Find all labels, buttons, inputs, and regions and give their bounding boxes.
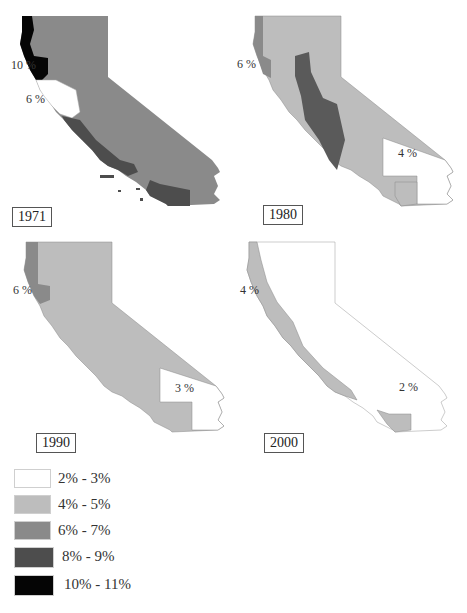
map-annotation: 6 % xyxy=(237,57,256,72)
map-annotation: 4 % xyxy=(240,283,259,298)
legend-swatch xyxy=(14,521,51,540)
map-panel-1971: 10 % 6 % 1971 xyxy=(0,0,233,240)
legend-swatch xyxy=(14,575,54,596)
legend-item: 8% - 9% xyxy=(14,547,214,569)
california-map-1980 xyxy=(233,0,467,240)
year-label: 1971 xyxy=(12,207,52,227)
california-map-1990 xyxy=(0,240,233,465)
map-annotation: 2 % xyxy=(399,380,418,395)
california-map-2000 xyxy=(233,240,467,465)
legend-swatch xyxy=(14,495,51,514)
map-annotation: 3 % xyxy=(175,381,194,396)
map-annotation: 6 % xyxy=(26,92,45,107)
legend-swatch xyxy=(14,469,51,488)
california-map-1971 xyxy=(0,0,233,240)
year-label: 1990 xyxy=(36,433,76,453)
year-label: 2000 xyxy=(264,433,304,453)
year-label: 1980 xyxy=(263,205,303,225)
map-panel-1990: 6 % 3 % 1990 xyxy=(0,240,233,465)
legend-item: 4% - 5% xyxy=(14,495,214,517)
legend-item: 10% - 11% xyxy=(14,575,214,597)
legend-item: 6% - 7% xyxy=(14,521,214,543)
map-annotation: 10 % xyxy=(11,58,36,73)
legend-label: 4% - 5% xyxy=(58,495,111,514)
map-panel-2000: 4 % 2 % 2000 xyxy=(233,240,467,465)
legend-label: 10% - 11% xyxy=(64,575,131,594)
legend-swatch xyxy=(14,547,54,568)
legend-item: 2% - 3% xyxy=(14,469,214,491)
legend-label: 6% - 7% xyxy=(58,521,111,540)
map-annotation: 6 % xyxy=(13,283,32,298)
legend-label: 2% - 3% xyxy=(58,469,111,488)
map-panel-1980: 6 % 4 % 1980 xyxy=(233,0,467,240)
map-annotation: 4 % xyxy=(398,146,417,161)
legend-label: 8% - 9% xyxy=(62,547,115,566)
